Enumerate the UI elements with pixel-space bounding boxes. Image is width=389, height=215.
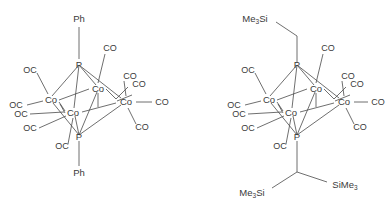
left-substituent-top-label: Ph: [73, 13, 85, 24]
bond-coleft-cobottom: [59, 102, 65, 111]
bond-me3si-ch2-top: [276, 22, 297, 36]
right-substituent-bottom-right-label: SiMe3: [332, 179, 358, 191]
structures-svg: Ph P Co Co Co Co P Ph OC OC OC OC OC CO …: [0, 0, 389, 215]
right-oc-bottom-c-label: OC: [273, 141, 287, 151]
figure-canvas: Ph P Co Co Co Co P Ph OC OC OC OC OC CO …: [0, 0, 389, 215]
bond-r-coleft-cotop: [277, 89, 307, 100]
bond-ch-sime3-right: [297, 172, 327, 182]
bond-r-coleft-cobottom: [277, 102, 283, 111]
left-p-top-label: P: [76, 59, 82, 70]
right-co-right-lower-label: CO: [353, 122, 367, 132]
right-substituent-top-label: Me3Si: [242, 13, 267, 25]
me-prefix-bl: Me: [239, 187, 252, 198]
left-co-right-label: Co: [120, 96, 132, 107]
right-structure: Me3Si P Co Co Co Co P Me3Si SiMe3 OC OC …: [227, 13, 385, 199]
si-suffix-top: Si: [259, 13, 267, 24]
bond-r-cobottom-coright: [300, 103, 334, 112]
me-prefix-top: Me: [242, 13, 255, 24]
right-substituent-bottom-left-label: Me3Si: [239, 187, 264, 199]
right-p-top-label: P: [294, 59, 300, 70]
bond-r-co-bottom-b: [257, 116, 284, 128]
left-co-top-c-label: CO: [132, 79, 146, 89]
left-structure: Ph P Co Co Co Co P Ph OC OC OC OC OC CO …: [9, 13, 169, 178]
bond-r-ptop-cobottom: [292, 65, 297, 108]
right-co-left-label: Co: [263, 94, 275, 105]
left-co-right-lower-label: CO: [135, 122, 149, 132]
left-oc-upper-label: OC: [23, 65, 37, 75]
bond-r-coleft-cobottom-b: [278, 104, 283, 113]
right-co-bottom-label: Co: [285, 107, 297, 118]
left-p-bottom-label: P: [76, 131, 82, 142]
bond-r-co-bottom-a: [248, 112, 282, 114]
left-substituent-bottom-label: Ph: [73, 167, 85, 178]
left-co-top-label: Co: [92, 83, 104, 94]
right-co-top-c-label: CO: [350, 79, 364, 89]
bond-co-left-mid: [27, 101, 43, 105]
bond-ch-me3si-left: [272, 172, 297, 188]
right-co-right-horizontal-label: CO: [371, 97, 385, 107]
left-oc-bottom-a-label: OC: [14, 109, 28, 119]
bond-r-co-left-upper: [255, 73, 266, 94]
right-oc-bottom-b-label: OC: [241, 123, 255, 133]
si-suffix-bl: Si: [256, 187, 264, 198]
bond-r-co-right-upper: [342, 81, 344, 96]
right-oc-bottom-a-label: OC: [232, 109, 246, 119]
bond-coleft-cotop: [59, 89, 89, 100]
left-co-right-horizontal-label: CO: [155, 97, 169, 107]
bond-co-top-a: [98, 54, 105, 83]
sime-prefix-br: SiMe: [332, 179, 354, 190]
right-p-bottom-label: P: [294, 131, 300, 142]
bond-co-bottom-a: [30, 112, 64, 114]
sime-sub-br: 3: [354, 184, 358, 191]
bond-cobottom-coright: [82, 103, 116, 112]
bond-r-co-top-a: [316, 54, 323, 83]
left-co-top-a-label: CO: [103, 43, 117, 53]
left-oc-bottom-c-label: OC: [55, 141, 69, 151]
bond-coleft-cobottom-b: [60, 104, 65, 113]
right-oc-upper-label: OC: [241, 65, 255, 75]
left-oc-bottom-b-label: OC: [23, 123, 37, 133]
right-co-right-label: Co: [338, 96, 350, 107]
bond-co-right-upper: [124, 81, 126, 96]
bond-co-bottom-b: [39, 116, 66, 128]
bond-ptop-cobottom: [74, 65, 79, 108]
left-co-bottom-label: Co: [67, 107, 79, 118]
left-co-left-label: Co: [45, 94, 57, 105]
right-co-top-label: Co: [310, 83, 322, 94]
right-co-top-a-label: CO: [321, 43, 335, 53]
bond-r-co-left-mid: [245, 101, 261, 105]
bond-co-left-upper: [37, 73, 48, 94]
